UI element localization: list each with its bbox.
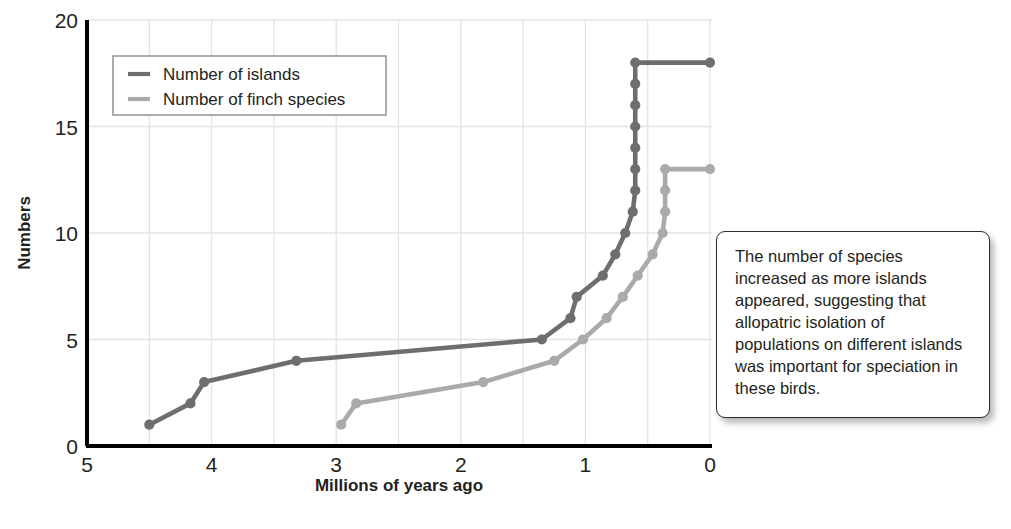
legend-label-islands: Number of islands bbox=[163, 65, 300, 84]
data-point bbox=[610, 249, 620, 259]
series-line bbox=[149, 63, 710, 425]
x-tick-label: 0 bbox=[704, 453, 716, 476]
data-point bbox=[630, 58, 640, 68]
data-point bbox=[144, 420, 154, 430]
chart-legend: Number of islands Number of finch specie… bbox=[113, 56, 386, 115]
data-point bbox=[199, 377, 209, 387]
data-point bbox=[660, 164, 670, 174]
data-point bbox=[598, 271, 608, 281]
x-tick-label: 2 bbox=[455, 453, 467, 476]
y-tick-label: 5 bbox=[66, 329, 78, 352]
data-point bbox=[601, 313, 611, 323]
data-point bbox=[630, 185, 640, 195]
data-point bbox=[578, 334, 588, 344]
callout-text: The number of species increased as more … bbox=[735, 246, 973, 400]
data-point bbox=[336, 420, 346, 430]
figure-container: 54321005101520 Millions of years ago Num… bbox=[0, 0, 1011, 529]
data-point bbox=[291, 356, 301, 366]
data-point bbox=[630, 164, 640, 174]
x-tick-label: 4 bbox=[206, 453, 218, 476]
data-point bbox=[630, 100, 640, 110]
legend-label-finch-species: Number of finch species bbox=[163, 90, 345, 109]
data-point bbox=[185, 398, 195, 408]
data-point bbox=[618, 292, 628, 302]
data-point bbox=[658, 228, 668, 238]
data-point bbox=[572, 292, 582, 302]
series-line bbox=[341, 169, 710, 425]
y-tick-label: 0 bbox=[66, 435, 78, 458]
data-point bbox=[630, 79, 640, 89]
x-axis-title: Millions of years ago bbox=[315, 476, 483, 495]
data-point bbox=[660, 207, 670, 217]
y-axis-title: Numbers bbox=[15, 196, 34, 270]
data-point bbox=[630, 143, 640, 153]
data-point bbox=[565, 313, 575, 323]
data-point bbox=[660, 185, 670, 195]
data-point bbox=[630, 121, 640, 131]
data-point bbox=[620, 228, 630, 238]
data-point bbox=[478, 377, 488, 387]
y-tick-label: 20 bbox=[55, 9, 78, 32]
data-point bbox=[351, 398, 361, 408]
data-point bbox=[705, 58, 715, 68]
x-tick-label: 5 bbox=[81, 453, 93, 476]
callout-box: The number of species increased as more … bbox=[716, 231, 990, 418]
y-tick-label: 10 bbox=[55, 222, 78, 245]
data-point bbox=[705, 164, 715, 174]
x-tick-label: 3 bbox=[330, 453, 342, 476]
data-point bbox=[549, 356, 559, 366]
series-finch-species bbox=[336, 164, 715, 430]
data-point bbox=[537, 334, 547, 344]
y-tick-label: 15 bbox=[55, 116, 78, 139]
data-point bbox=[633, 271, 643, 281]
x-tick-label: 1 bbox=[580, 453, 592, 476]
data-point bbox=[648, 249, 658, 259]
data-point bbox=[628, 207, 638, 217]
